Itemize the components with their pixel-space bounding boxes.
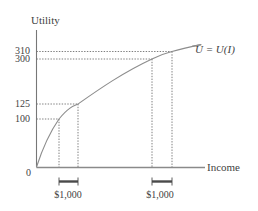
y-tick-label-100: 100 <box>8 114 30 124</box>
x-axis-title: Income <box>207 162 240 173</box>
y-axis-title: Utility <box>31 15 60 26</box>
bracket-label-increment-2: $1,000 <box>140 190 180 200</box>
bracket-increment-2 <box>152 178 172 186</box>
utility-income-figure: Utility Income 310 300 125 100 0 U = U(I… <box>0 0 258 211</box>
y-tick-label-125: 125 <box>8 99 30 109</box>
origin-label: 0 <box>26 168 31 178</box>
curve-label: U = U(I) <box>195 44 235 55</box>
bracket-label-increment-1: $1,000 <box>48 190 88 200</box>
plot-area <box>0 0 258 211</box>
utility-curve <box>37 45 202 167</box>
y-tick-label-300: 300 <box>8 54 30 64</box>
bracket-increment-1 <box>59 178 78 186</box>
